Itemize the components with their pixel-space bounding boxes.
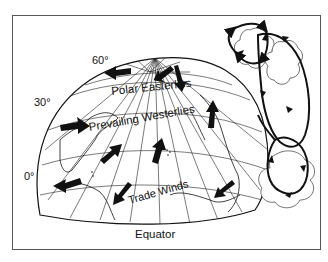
globe-illustration bbox=[0, 0, 328, 262]
latitude-label-0: 0° bbox=[24, 171, 35, 182]
wind-belts-diagram: 60° 30° 0° Polar Easterlies Prevailing W… bbox=[0, 0, 328, 262]
latitude-label-60: 60° bbox=[92, 55, 109, 66]
equator-label: Equator bbox=[135, 229, 175, 241]
latitude-label-30: 30° bbox=[34, 97, 51, 108]
